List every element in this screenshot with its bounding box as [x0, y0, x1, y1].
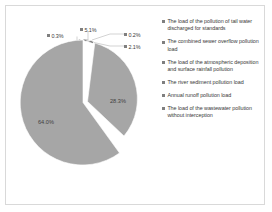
legend-swatch-icon [162, 107, 165, 110]
data-label-combined-sewer: 5.1% [80, 26, 96, 33]
legend-item-combined-sewer[interactable]: The combined sewer overflow pollution lo… [162, 38, 262, 53]
data-label-annual-runoff: 28.3% [110, 98, 126, 104]
legend-item-river-sediment[interactable]: The river sediment pollution load [162, 79, 262, 86]
legend-swatch-icon [162, 81, 165, 84]
legend-label: The load of the atmospheric deposition a… [167, 59, 262, 74]
data-label-atmospheric-deposition: 0.2% [124, 31, 140, 38]
legend-label: The river sediment pollution load [167, 79, 243, 86]
chart-legend: The load of the pollution of tail water … [162, 18, 262, 125]
legend-swatch-icon [162, 20, 165, 23]
legend-item-tail-water[interactable]: The load of the pollution of tail water … [162, 18, 262, 33]
data-label-wastewater-no-interception: 64.0% [38, 119, 54, 125]
legend-swatch-icon [162, 94, 165, 97]
legend-item-annual-runoff[interactable]: Annual runoff pollution load [162, 92, 262, 99]
legend-swatch-icon [162, 61, 165, 64]
pie-plot-area: 0.3% 5.1% 0.2% 2.1% 28.3% 64.0% [6, 6, 158, 204]
legend-item-atmospheric-deposition[interactable]: The load of the atmospheric deposition a… [162, 59, 262, 74]
data-label-marker-icon [124, 45, 127, 48]
legend-label: The combined sewer overflow pollution lo… [167, 38, 262, 53]
legend-label: The load of the pollution of tail water … [167, 18, 262, 33]
legend-label: The load of the wastewater pollution wit… [167, 105, 262, 120]
label-leader-lines [77, 31, 124, 46]
data-label-marker-icon [80, 28, 83, 31]
data-label-marker-icon [124, 33, 127, 36]
legend-swatch-icon [162, 41, 165, 44]
data-label-tail-water: 0.3% [47, 32, 63, 39]
chart-container: 0.3% 5.1% 0.2% 2.1% 28.3% 64.0% The load… [5, 5, 265, 205]
legend-item-wastewater-no-interception[interactable]: The load of the wastewater pollution wit… [162, 105, 262, 120]
legend-label: Annual runoff pollution load [167, 92, 231, 99]
data-label-river-sediment: 2.1% [124, 43, 140, 50]
data-label-marker-icon [47, 34, 50, 37]
